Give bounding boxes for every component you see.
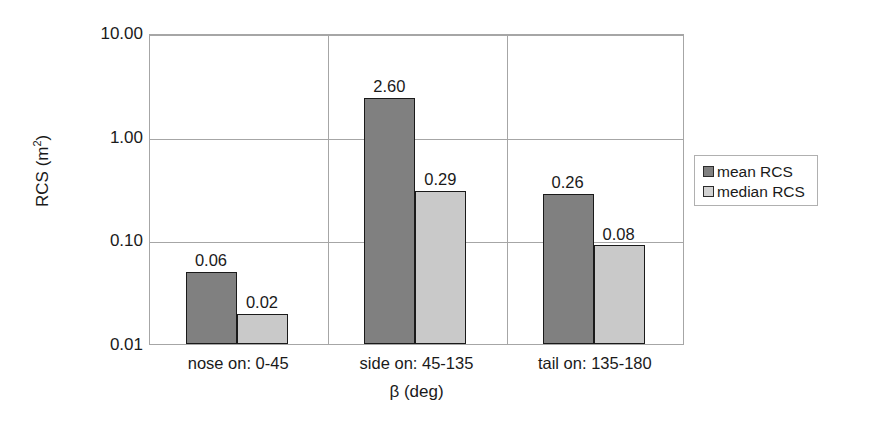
bar-value-mean-side-on: 2.60 [354,77,424,95]
bar-median-tail-on[interactable] [594,245,645,344]
plot-area: 0.06 0.02 2.60 0.29 0.26 0.08 [149,34,684,345]
bar-mean-side-on[interactable] [364,98,415,344]
legend-entry-median-rcs[interactable]: median RCS [703,182,817,201]
bar-value-mean-nose-on: 0.06 [176,251,246,269]
x-tick-label-tail-on: tail on: 135-180 [506,352,684,376]
y-axis-title-close: ) [33,135,52,141]
bar-value-median-nose-on: 0.02 [227,293,297,311]
bar-group-side-on: 2.60 0.29 [328,35,506,344]
x-tick-label-side-on: side on: 45-135 [327,352,505,376]
bar-median-nose-on[interactable] [237,314,288,344]
bars-layer: 0.06 0.02 2.60 0.29 0.26 0.08 [150,35,683,344]
legend-entry-mean-rcs[interactable]: mean RCS [703,162,817,181]
bar-group-nose-on: 0.06 0.02 [150,35,328,344]
bar-median-side-on[interactable] [415,191,466,344]
legend-swatch-icon-mean [703,166,714,177]
y-tick-label: 1.00 [63,129,143,146]
bar-value-median-tail-on: 0.08 [584,225,654,243]
legend-label-mean: mean RCS [717,163,793,180]
bar-value-median-side-on: 0.29 [405,170,475,188]
y-tick-label: 10.00 [63,25,143,42]
rcs-bar-chart: 10.00 1.00 0.10 0.01 RCS (m2) 0.06 0.02 [0,0,877,432]
x-axis-title: β (deg) [149,382,684,402]
y-axis-title-superscript: 2 [31,140,43,146]
bar-group-tail-on: 0.26 0.08 [507,35,685,344]
x-tick-label-nose-on: nose on: 0-45 [149,352,327,376]
gridline-horizontal [150,344,683,345]
legend-swatch-icon-median [703,186,714,197]
y-axis-title: RCS (m2) [31,91,53,251]
y-tick-label: 0.10 [63,232,143,249]
y-tick-label: 0.01 [63,336,143,353]
chart-legend: mean RCS median RCS [694,155,818,206]
bar-mean-tail-on[interactable] [543,194,594,344]
bar-value-mean-tail-on: 0.26 [533,173,603,191]
y-axis-title-text: RCS (m [33,147,52,207]
legend-label-median: median RCS [717,183,805,200]
x-axis-tick-labels: nose on: 0-45 side on: 45-135 tail on: 1… [149,352,684,376]
y-axis-tick-labels: 10.00 1.00 0.10 0.01 [55,34,143,345]
